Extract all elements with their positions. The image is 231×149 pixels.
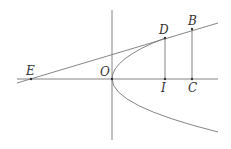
- label-D: D: [158, 23, 169, 37]
- point-C: [191, 78, 193, 80]
- point-D: [164, 37, 166, 39]
- label-O: O: [100, 65, 110, 79]
- point-E: [30, 78, 32, 80]
- label-B: B: [187, 14, 197, 28]
- point-O: [111, 78, 113, 80]
- tangent-line: [17, 23, 218, 83]
- point-B: [191, 28, 193, 30]
- parabola-diagram: E O D I B C: [0, 0, 231, 149]
- point-I: [164, 78, 166, 80]
- label-E: E: [25, 64, 35, 78]
- label-C: C: [188, 81, 197, 95]
- label-I: I: [160, 81, 166, 95]
